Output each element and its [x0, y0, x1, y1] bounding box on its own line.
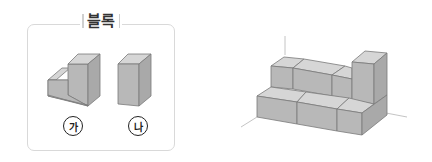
panel-title-text: 블록 — [87, 12, 115, 30]
title-divider-left — [82, 14, 84, 28]
label-ga-text: 가 — [69, 122, 78, 133]
axis-right — [386, 113, 407, 117]
label-na: 나 — [128, 116, 148, 136]
block-na-illustration — [115, 50, 155, 110]
label-ga: 가 — [63, 116, 83, 136]
panel-title: 블록 — [80, 11, 122, 31]
stair-structure-illustration — [216, 0, 432, 162]
block-ga-illustration — [44, 50, 106, 110]
axis-left — [241, 117, 257, 127]
title-divider-right — [119, 14, 121, 28]
label-na-text: 나 — [134, 122, 143, 133]
